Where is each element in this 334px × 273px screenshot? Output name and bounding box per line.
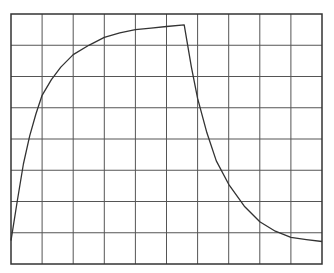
chart-grid bbox=[11, 14, 322, 264]
line-chart bbox=[0, 0, 334, 273]
